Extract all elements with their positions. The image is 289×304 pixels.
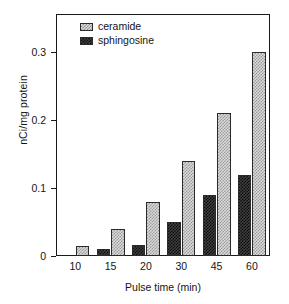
- x-axis-tick-label: 60: [237, 261, 267, 272]
- bar-sphingosine: [97, 249, 111, 256]
- legend-label-sphingosine: sphingosine: [98, 35, 154, 46]
- y-axis-tick-label: 0.3: [20, 47, 46, 58]
- plot-area: [58, 15, 270, 256]
- bar-chart-figure: nCi/mg protein 00.10.20.3 ceramide sphin…: [0, 0, 289, 304]
- bar-ceramide: [182, 161, 196, 256]
- bar-group: [58, 15, 93, 256]
- y-axis-tick-label: 0.2: [20, 115, 46, 126]
- y-axis-tick-mark: [51, 188, 56, 189]
- bar-sphingosine: [203, 195, 217, 256]
- bar-group: [93, 15, 128, 256]
- bar-group: [234, 15, 269, 256]
- bar-group: [164, 15, 199, 256]
- x-axis-tick-label: 20: [131, 261, 161, 272]
- y-axis-tick-labels: 00.10.20.3: [16, 0, 46, 304]
- bar-group: [199, 15, 234, 256]
- y-axis-tick-label: 0: [20, 251, 46, 262]
- bar-group: [128, 15, 163, 256]
- legend-swatch-sphingosine-icon: [80, 37, 93, 45]
- y-axis-tick-mark: [51, 256, 56, 257]
- legend-swatch-ceramide-icon: [80, 23, 93, 31]
- x-axis-tick-label: 45: [202, 261, 232, 272]
- chart-legend: ceramide sphingosine: [80, 20, 190, 48]
- x-axis-tick-label: 15: [96, 261, 126, 272]
- bar-ceramide: [111, 229, 125, 256]
- legend-item-sphingosine: sphingosine: [80, 34, 190, 47]
- y-axis-tick-mark: [51, 120, 56, 121]
- bar-sphingosine: [132, 245, 146, 256]
- bar-sphingosine: [238, 175, 252, 256]
- legend-label-ceramide: ceramide: [98, 21, 141, 32]
- bar-ceramide: [146, 202, 160, 256]
- y-axis-tick-label: 0.1: [20, 183, 46, 194]
- x-axis-tick-label: 30: [166, 261, 196, 272]
- bar-sphingosine: [167, 222, 181, 256]
- x-axis-tick-label: 10: [60, 261, 90, 272]
- legend-item-ceramide: ceramide: [80, 20, 190, 33]
- bar-ceramide: [217, 113, 231, 256]
- bar-ceramide: [252, 52, 266, 256]
- bar-ceramide: [76, 246, 90, 256]
- x-axis-title: Pulse time (min): [56, 281, 270, 293]
- y-axis-tick-mark: [51, 52, 56, 53]
